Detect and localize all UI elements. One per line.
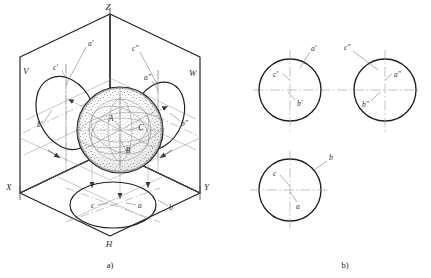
figure-root: Z X Y V W H A B C a′ c′ b′ c″ a″ b″ c a …	[0, 0, 431, 278]
panel-a-caption: a)	[107, 260, 114, 270]
leader-b	[314, 161, 327, 170]
h-label-a: a	[138, 201, 142, 210]
h-plane-ellipse-group	[66, 182, 168, 228]
v-label-c-prime: c′	[53, 63, 58, 72]
h-centerlines	[66, 188, 160, 222]
side-view-label-b-dprime: b″	[362, 100, 370, 109]
sphere-point-c-label: C	[138, 123, 144, 132]
top-view: b c a	[250, 151, 333, 231]
plane-v-label: V	[23, 66, 30, 76]
v-label-b-prime: b′	[37, 120, 43, 129]
leader-a-dprime	[385, 74, 392, 80]
panel-b: a′ c′ b′ c″ a″ b″	[250, 43, 420, 270]
plane-w-label: W	[189, 68, 198, 78]
leader-c-prime	[283, 74, 290, 80]
h-label-b: b	[169, 203, 173, 212]
front-view-label-a-prime: a′	[311, 44, 317, 53]
sphere-group	[75, 85, 165, 175]
sphere-surface	[75, 85, 165, 175]
front-view-label-c-prime: c′	[273, 70, 278, 79]
top-view-label-c: c	[273, 169, 277, 178]
axis-y-label: Y	[204, 182, 210, 192]
sphere-point-b-label: B	[126, 146, 131, 155]
leader-c	[280, 175, 290, 186]
plane-edge-ticks	[20, 186, 200, 200]
axis-x-label: X	[5, 182, 12, 192]
leader-b-dprime	[170, 113, 180, 121]
side-view: c″ a″ b″	[344, 43, 416, 132]
panel-b-caption: b)	[341, 260, 348, 270]
side-view-label-c-dprime: c″	[344, 43, 351, 52]
w-label-a-dprime: a″	[144, 73, 152, 82]
leader-b	[158, 200, 168, 206]
w-label-c-dprime: c″	[132, 44, 139, 53]
plane-h-label: H	[105, 239, 113, 249]
v-label-a-prime: a′	[88, 39, 94, 48]
leader-b-dprime	[371, 92, 380, 101]
top-view-label-a: a	[296, 202, 300, 211]
leader-a	[126, 203, 136, 205]
leader-b-prime	[44, 110, 52, 122]
sphere-point-a-label: A	[108, 114, 114, 123]
axis-z-label: Z	[105, 2, 111, 12]
front-view-label-b-prime: b′	[297, 99, 303, 108]
panel-a: Z X Y V W H A B C a′ c′ b′ c″ a″ b″ c a …	[5, 2, 210, 270]
leader-a-prime	[66, 47, 86, 85]
leader-b-prime	[288, 92, 295, 100]
technical-drawing-svg: Z X Y V W H A B C a′ c′ b′ c″ a″ b″ c a …	[0, 0, 431, 278]
top-view-label-b: b	[329, 153, 333, 162]
side-view-label-a-dprime: a″	[394, 70, 402, 79]
h-leaders	[97, 200, 168, 206]
w-label-b-dprime: b″	[181, 119, 189, 128]
leader-a	[290, 192, 297, 202]
front-view: a′ c′ b′	[259, 44, 321, 132]
